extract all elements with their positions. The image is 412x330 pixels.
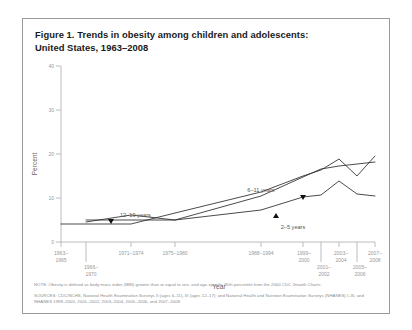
series-label-6-11-years: 6–11 years (247, 187, 274, 193)
up-triangle-icon-2-5-years (273, 213, 279, 218)
y-axis-ticks (56, 66, 61, 242)
x-tick-label-2007-sub: 2008 (369, 257, 380, 263)
x-tick-label-1963-sub: 1965 (55, 257, 66, 263)
x-tick-label-2007: 2007– (368, 250, 382, 256)
x-tick-label-1966: 1966– (84, 264, 98, 270)
x-tick-label-1966-sub: 1970 (85, 271, 96, 277)
x-tick-label-1988-1994: 1988–1994 (248, 250, 273, 256)
obesity-trends-line-chart: 40 30 20 10 0 Percent (23, 19, 391, 315)
x-tick-label-1975-1980: 1975–1980 (162, 250, 187, 256)
x-tick-label-2001: 2001– (317, 264, 331, 270)
y-tick-label-20: 20 (48, 151, 54, 157)
y-axis-tick-labels: 40 30 20 10 0 (48, 63, 54, 245)
y-tick-label-0: 0 (51, 239, 54, 245)
y-tick-label-10: 10 (48, 195, 54, 201)
x-tick-label-2001-sub: 2002 (318, 271, 329, 277)
y-axis-title: Percent (31, 152, 38, 175)
chart-source: SOURCES: CDC/NCHS, National Health Exami… (34, 293, 382, 304)
x-tick-label-1999: 1999– (297, 250, 311, 256)
chart-plot-area: 40 30 20 10 0 Percent (23, 19, 391, 315)
x-tick-label-2003-sub: 2004 (335, 257, 346, 263)
x-tick-label-2005: 2005– (353, 264, 367, 270)
x-tick-label-1999-sub: 2000 (298, 257, 309, 263)
x-axis-tick-labels: 1963– 1965 1966– 1970 1971–1974 1975–198… (54, 250, 382, 277)
annotation-2-5-years: 2–5 years (273, 213, 305, 230)
x-axis-ticks (61, 242, 375, 247)
figure-card: Figure 1. Trends in obesity among childr… (22, 18, 390, 314)
series-label-2-5-years: 2–5 years (281, 224, 306, 230)
chart-note: NOTE: Obesity is defined as body mass in… (34, 282, 382, 288)
down-triangle-icon-12-19-years (108, 219, 114, 224)
y-tick-label-30: 30 (48, 107, 54, 113)
y-tick-label-40: 40 (48, 63, 54, 69)
x-tick-label-2005-sub: 2006 (354, 271, 365, 277)
series-label-12-19-years: 12–19 years (120, 212, 151, 218)
x-tick-label-1963: 1963– (54, 250, 68, 256)
x-tick-label-1971-1974: 1971–1974 (118, 250, 143, 256)
x-tick-label-2003: 2003– (334, 250, 348, 256)
